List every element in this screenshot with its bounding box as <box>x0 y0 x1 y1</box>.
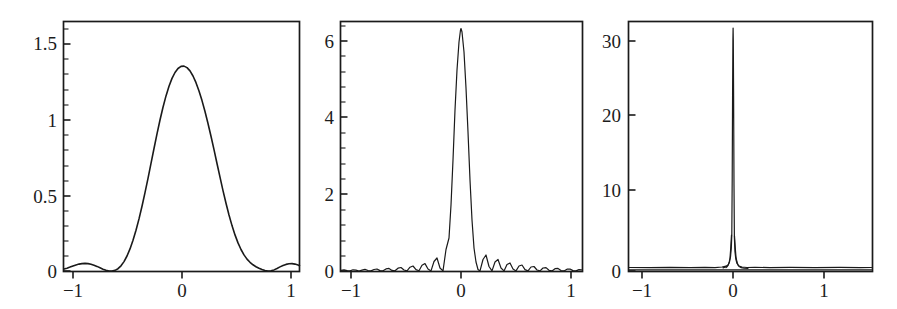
panel-3-y-major-ticks <box>629 41 636 271</box>
xtick-label: −1 <box>341 280 361 301</box>
panel-3-ytick-labels: 30 20 10 0 <box>602 31 621 282</box>
ytick-label: 6 <box>325 31 335 52</box>
panel-3-axis-frame <box>629 22 873 272</box>
ytick-label: 20 <box>602 105 621 126</box>
ytick-label: 2 <box>325 184 335 205</box>
ytick-label: 0.5 <box>33 186 57 207</box>
chart-panel-2: 6 4 2 0 −1 0 1 <box>300 0 590 309</box>
three-panel-figure: 1.5 1 0.5 0 −1 0 1 <box>0 0 897 309</box>
panel-1-x-major-ticks <box>73 272 291 279</box>
panel-1-curve <box>64 66 300 271</box>
panel-3-x-major-ticks <box>642 272 824 279</box>
xtick-label: 1 <box>819 280 829 301</box>
chart-panel-1: 1.5 1 0.5 0 −1 0 1 <box>0 0 310 309</box>
chart-panel-1-svg: 1.5 1 0.5 0 −1 0 1 <box>0 0 310 309</box>
ytick-label: 0 <box>612 261 622 282</box>
xtick-label: 0 <box>728 280 738 301</box>
panel-2-xtick-labels: −1 0 1 <box>341 280 576 301</box>
ytick-label: 1.5 <box>33 33 57 54</box>
xtick-label: 0 <box>456 280 466 301</box>
chart-panel-3: 30 20 10 0 −1 0 1 <box>590 0 897 309</box>
panel-2-y-major-ticks <box>341 41 348 271</box>
ytick-label: 0 <box>325 261 335 282</box>
panel-2-x-major-ticks <box>351 272 571 279</box>
xtick-label: 0 <box>177 280 187 301</box>
ytick-label: 1 <box>48 110 58 131</box>
panel-3-curve <box>629 28 872 268</box>
panel-3-xtick-labels: −1 0 1 <box>632 280 829 301</box>
ytick-label: 30 <box>602 31 621 52</box>
panel-2-axis-frame <box>341 22 583 272</box>
chart-panel-2-svg: 6 4 2 0 −1 0 1 <box>300 0 590 309</box>
panel-2-curve <box>341 29 582 272</box>
xtick-label: −1 <box>63 280 83 301</box>
panel-1-xtick-labels: −1 0 1 <box>63 280 296 301</box>
ytick-label: 4 <box>325 107 335 128</box>
panel-1-ytick-labels: 1.5 1 0.5 0 <box>33 33 57 282</box>
xtick-label: −1 <box>632 280 652 301</box>
panel-2-ytick-labels: 6 4 2 0 <box>325 31 335 282</box>
ytick-label: 0 <box>48 261 58 282</box>
panel-1-y-major-ticks <box>64 44 71 271</box>
panel-3-spike-detail <box>723 235 748 268</box>
xtick-label: 1 <box>566 280 576 301</box>
ytick-label: 10 <box>602 180 621 201</box>
panel-1-axis-frame <box>64 22 300 272</box>
xtick-label: 1 <box>286 280 296 301</box>
chart-panel-3-svg: 30 20 10 0 −1 0 1 <box>590 0 897 309</box>
